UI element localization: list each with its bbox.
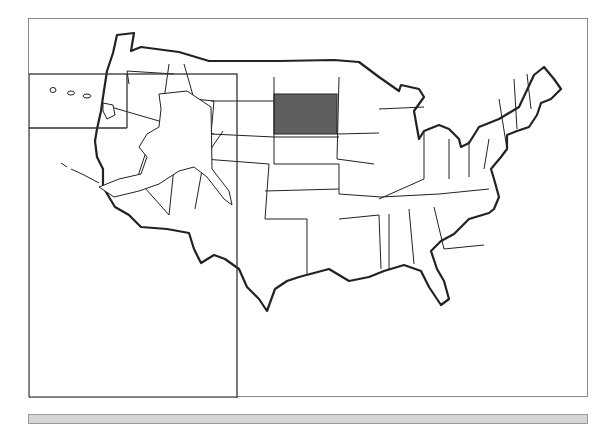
state-south-dakota-highlighted [274,94,337,134]
map-frame [28,18,588,397]
us-states-map [29,19,589,398]
aleutian-islands [61,163,99,183]
answer-bar [28,414,588,424]
